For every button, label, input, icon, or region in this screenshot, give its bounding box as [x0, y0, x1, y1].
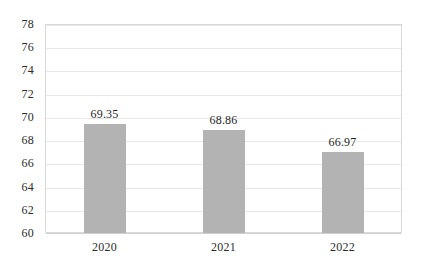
bar-slot: 68.86: [164, 24, 283, 233]
bar-value-label: 69.35: [91, 107, 119, 122]
y-tick-label: 60: [22, 226, 34, 241]
x-axis: 2020 2021 2022: [45, 234, 402, 260]
bar-slot: 66.97: [283, 24, 402, 233]
y-tick-label: 68: [22, 133, 34, 148]
bar-chart: 78 76 74 72 70 68 66 64 62 60 69.35: [0, 0, 423, 264]
y-tick-label: 70: [22, 109, 34, 124]
y-tick-label: 62: [22, 202, 34, 217]
y-tick-label: 74: [22, 63, 34, 78]
y-tick-label: 66: [22, 156, 34, 171]
bar[interactable]: [84, 124, 126, 233]
y-axis: 78 76 74 72 70 68 66 64 62 60: [0, 24, 40, 233]
bar[interactable]: [203, 130, 245, 233]
y-tick-label: 72: [22, 86, 34, 101]
bar[interactable]: [322, 152, 364, 233]
bar-slot: 69.35: [45, 24, 164, 233]
x-tick-label: 2021: [211, 240, 236, 255]
x-tick-label: 2022: [330, 240, 355, 255]
bars-layer: 69.35 68.86 66.97: [45, 24, 402, 233]
bar-value-label: 68.86: [210, 113, 238, 128]
bar-value-label: 66.97: [329, 135, 357, 150]
y-tick-label: 78: [22, 17, 34, 32]
y-tick-label: 76: [22, 40, 34, 55]
x-tick-label: 2020: [92, 240, 117, 255]
y-tick-label: 64: [22, 179, 34, 194]
